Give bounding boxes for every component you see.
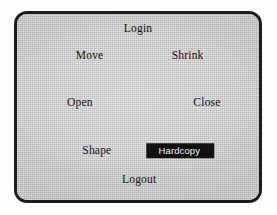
menu-item-move[interactable]: Move	[73, 48, 107, 64]
scan-canvas: Login Shrink Close Hardcopy Logout Shape…	[0, 0, 277, 215]
menu-item-open[interactable]: Open	[64, 96, 96, 112]
menu-item-close[interactable]: Close	[190, 96, 223, 112]
menu-item-login[interactable]: Login	[121, 21, 155, 37]
pie-menu-frame: Login Shrink Close Hardcopy Logout Shape…	[14, 11, 262, 203]
menu-item-shrink[interactable]: Shrink	[169, 48, 207, 64]
pie-menu-items: Login Shrink Close Hardcopy Logout Shape…	[17, 14, 259, 200]
menu-item-hardcopy[interactable]: Hardcopy	[147, 143, 214, 159]
menu-item-shape[interactable]: Shape	[79, 143, 114, 159]
menu-item-logout[interactable]: Logout	[119, 172, 159, 188]
